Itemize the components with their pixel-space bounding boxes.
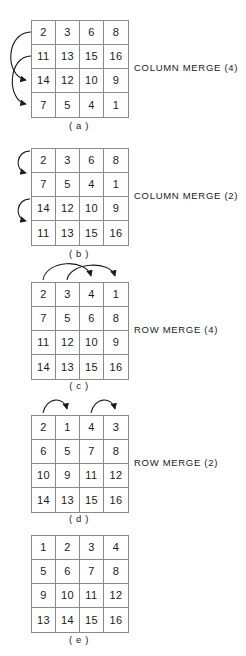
cell: 6 bbox=[80, 21, 104, 45]
cell: 9 bbox=[56, 464, 80, 488]
cell: 3 bbox=[56, 283, 80, 307]
arrow-col1-to-col3 bbox=[43, 264, 91, 280]
panel-e: 1 2 3 4 5 6 7 8 9 10 11 12 13 14 15 16 (… bbox=[0, 528, 246, 656]
grid-d: 2 1 4 3 6 5 7 8 10 9 11 12 14 13 15 16 bbox=[31, 415, 129, 513]
grid-b: 2 3 6 8 7 5 4 1 14 12 10 9 11 13 15 16 bbox=[31, 148, 129, 246]
panel-b-side-label: COLUMN MERGE (2) bbox=[134, 190, 238, 201]
cell: 14 bbox=[32, 355, 56, 379]
cell: 9 bbox=[104, 331, 128, 355]
cell: 1 bbox=[104, 283, 128, 307]
cell: 12 bbox=[104, 464, 128, 488]
panel-a-caption: ( a ) bbox=[31, 120, 127, 131]
cell: 6 bbox=[32, 440, 56, 464]
cell: 6 bbox=[80, 149, 104, 173]
panel-a: 2 3 6 8 11 13 15 16 14 12 10 9 7 5 4 1 C… bbox=[0, 0, 246, 136]
arrow-col2-to-col4 bbox=[67, 265, 115, 280]
cell: 2 bbox=[32, 283, 56, 307]
cell: 16 bbox=[104, 488, 128, 512]
cell: 9 bbox=[104, 69, 128, 93]
cell: 14 bbox=[32, 488, 56, 512]
cell: 12 bbox=[56, 331, 80, 355]
cell: 12 bbox=[56, 197, 80, 221]
cell: 5 bbox=[56, 93, 80, 117]
cell: 8 bbox=[104, 149, 128, 173]
cell: 2 bbox=[32, 149, 56, 173]
cell: 5 bbox=[56, 440, 80, 464]
panel-c: 2 3 4 1 7 5 6 8 11 12 10 9 14 13 15 16 R… bbox=[0, 258, 246, 393]
cell: 13 bbox=[32, 608, 56, 632]
merge-sort-figure: 2 3 6 8 11 13 15 16 14 12 10 9 7 5 4 1 C… bbox=[0, 0, 246, 656]
cell: 11 bbox=[80, 584, 104, 608]
cell: 4 bbox=[104, 536, 128, 560]
cell: 13 bbox=[56, 488, 80, 512]
arrow-col1-to-col2 bbox=[43, 400, 67, 413]
panel-c-caption: ( c ) bbox=[31, 380, 127, 391]
cell: 13 bbox=[56, 221, 80, 245]
cell: 9 bbox=[32, 584, 56, 608]
cell: 3 bbox=[56, 149, 80, 173]
cell: 15 bbox=[80, 608, 104, 632]
cell: 12 bbox=[104, 584, 128, 608]
arrow-row1-to-row3 bbox=[11, 32, 31, 80]
cell: 1 bbox=[56, 416, 80, 440]
cell: 1 bbox=[104, 93, 128, 117]
arrow-col3-to-col4 bbox=[91, 400, 115, 413]
cell: 11 bbox=[80, 464, 104, 488]
panel-c-side-label: ROW MERGE (4) bbox=[134, 324, 218, 335]
cell: 10 bbox=[56, 584, 80, 608]
cell: 14 bbox=[32, 197, 56, 221]
cell: 13 bbox=[56, 355, 80, 379]
cell: 3 bbox=[104, 416, 128, 440]
cell: 8 bbox=[104, 560, 128, 584]
panel-b: 2 3 6 8 7 5 4 1 14 12 10 9 11 13 15 16 C… bbox=[0, 140, 246, 265]
cell: 5 bbox=[32, 560, 56, 584]
cell: 4 bbox=[80, 416, 104, 440]
cell: 1 bbox=[32, 536, 56, 560]
cell: 2 bbox=[32, 21, 56, 45]
panel-e-caption: ( e ) bbox=[31, 634, 127, 645]
cell: 14 bbox=[32, 69, 56, 93]
panel-d: 2 1 4 3 6 5 7 8 10 9 11 12 14 13 15 16 R… bbox=[0, 392, 246, 527]
cell: 15 bbox=[80, 221, 104, 245]
panel-a-side-label: COLUMN MERGE (4) bbox=[134, 62, 238, 73]
cell: 9 bbox=[104, 197, 128, 221]
arrow-row1-to-row2 bbox=[18, 151, 30, 173]
cell: 11 bbox=[32, 331, 56, 355]
cell: 15 bbox=[80, 488, 104, 512]
cell: 13 bbox=[56, 45, 80, 69]
cell: 5 bbox=[56, 307, 80, 331]
panel-d-side-label: ROW MERGE (2) bbox=[134, 457, 218, 468]
cell: 7 bbox=[80, 560, 104, 584]
cell: 12 bbox=[56, 69, 80, 93]
cell: 16 bbox=[104, 45, 128, 69]
cell: 2 bbox=[56, 536, 80, 560]
cell: 16 bbox=[104, 608, 128, 632]
cell: 4 bbox=[80, 283, 104, 307]
grid-c: 2 3 4 1 7 5 6 8 11 12 10 9 14 13 15 16 bbox=[31, 282, 129, 380]
cell: 3 bbox=[56, 21, 80, 45]
cell: 5 bbox=[56, 173, 80, 197]
cell: 10 bbox=[80, 69, 104, 93]
cell: 8 bbox=[104, 440, 128, 464]
cell: 10 bbox=[80, 331, 104, 355]
cell: 8 bbox=[104, 21, 128, 45]
cell: 2 bbox=[32, 416, 56, 440]
cell: 11 bbox=[32, 221, 56, 245]
cell: 16 bbox=[104, 221, 128, 245]
cell: 10 bbox=[32, 464, 56, 488]
cell: 6 bbox=[56, 560, 80, 584]
cell: 1 bbox=[104, 173, 128, 197]
cell: 11 bbox=[32, 45, 56, 69]
cell: 10 bbox=[80, 197, 104, 221]
cell: 14 bbox=[56, 608, 80, 632]
cell: 7 bbox=[32, 173, 56, 197]
cell: 7 bbox=[32, 307, 56, 331]
grid-a: 2 3 6 8 11 13 15 16 14 12 10 9 7 5 4 1 bbox=[31, 20, 129, 118]
grid-e: 1 2 3 4 5 6 7 8 9 10 11 12 13 14 15 16 bbox=[31, 535, 129, 633]
cell: 7 bbox=[80, 440, 104, 464]
cell: 15 bbox=[80, 355, 104, 379]
cell: 15 bbox=[80, 45, 104, 69]
cell: 7 bbox=[32, 93, 56, 117]
cell: 8 bbox=[104, 307, 128, 331]
cell: 3 bbox=[80, 536, 104, 560]
